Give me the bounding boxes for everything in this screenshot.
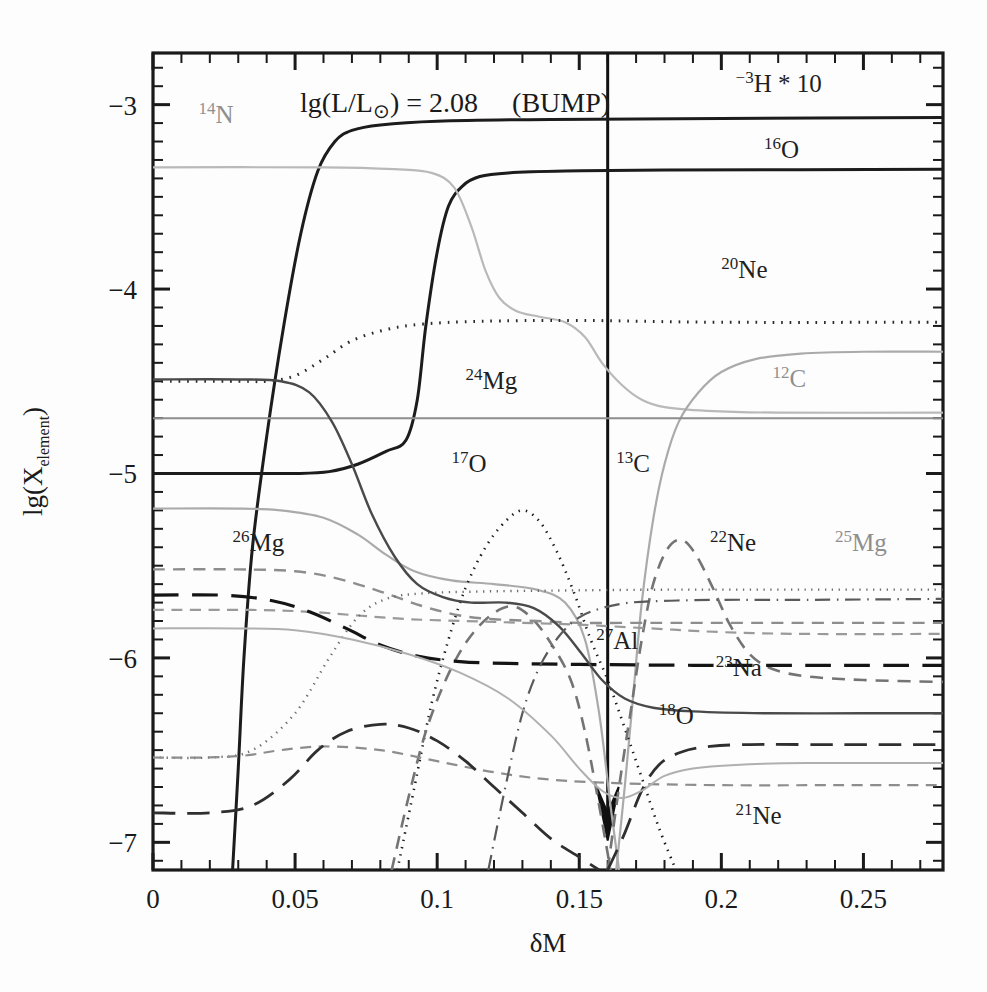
y-tick-label: −6 (108, 644, 137, 674)
y-tick-label: −7 (108, 828, 137, 858)
x-tick-label: 0.25 (840, 884, 887, 914)
element-abundance-chart: −3H * 1016O14N20Ne12C24Mg17O13C26Mg25Mg2… (0, 0, 987, 992)
x-tick-label: 0.05 (271, 884, 318, 914)
figure-background (0, 0, 987, 992)
x-tick-label: 0 (146, 884, 160, 914)
y-tick-label: −3 (108, 91, 137, 121)
y-tick-label: −5 (108, 459, 137, 489)
x-axis-title: δM (530, 928, 567, 958)
figure-root: −3H * 1016O14N20Ne12C24Mg17O13C26Mg25Mg2… (0, 0, 987, 992)
chart-title: lg(L/L⊙) = 2.08(BUMP) (300, 87, 610, 122)
x-tick-label: 0.15 (556, 884, 603, 914)
x-tick-label: 0.1 (420, 884, 454, 914)
x-tick-label: 0.2 (704, 884, 738, 914)
y-tick-label: −4 (108, 275, 137, 305)
